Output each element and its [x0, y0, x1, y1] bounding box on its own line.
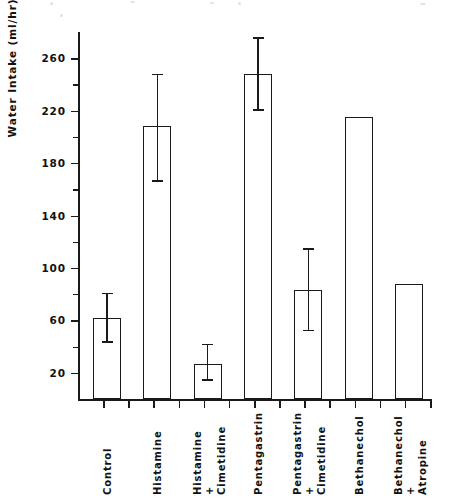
y-axis-title: Water Intake (ml/hr) [6, 0, 18, 168]
error-bar-cap [102, 341, 113, 343]
x-axis-category-label: Pentagastrin [292, 412, 304, 495]
scan-speck [60, 14, 63, 17]
y-axis-tick-label: 140 [22, 211, 66, 222]
x-axis-tick [128, 399, 130, 408]
y-axis-minor-tick [73, 84, 78, 85]
x-axis-tick [329, 399, 331, 408]
scan-speck [420, 3, 426, 5]
error-bar [157, 74, 158, 180]
error-bar-cap [303, 330, 314, 332]
x-axis-tick [103, 399, 105, 408]
x-axis-tick [279, 399, 281, 408]
error-bar [257, 37, 258, 109]
x-axis-tick [204, 399, 206, 408]
y-axis-tick-label: 220 [22, 106, 66, 117]
x-axis-tick [304, 399, 306, 408]
y-axis-tick-label: 20 [22, 368, 66, 379]
x-axis-category-label: Cimetidine [316, 426, 328, 495]
plot-area: 2060100140180220260 [78, 32, 430, 401]
error-bar [207, 344, 208, 379]
error-bar-cap [303, 248, 314, 250]
y-axis-tick-label: 100 [22, 263, 66, 274]
y-axis-tick-label: 180 [22, 158, 66, 169]
x-axis-category-label: Cimetidine [216, 426, 228, 495]
scan-speck [50, 2, 53, 5]
y-axis-tick-label: 260 [22, 53, 66, 64]
y-axis-tick-label: 60 [22, 315, 66, 326]
x-axis-category-label: Bethanechol [354, 415, 366, 495]
x-axis-category-label: Pentagastrin [253, 412, 265, 495]
bar [244, 74, 272, 399]
x-axis-category-label: Bethanechol [393, 415, 405, 495]
bar [395, 284, 423, 399]
y-axis-tick [71, 111, 78, 112]
error-bar-cap [253, 109, 264, 111]
y-axis-tick [71, 373, 78, 374]
x-axis-tick [179, 399, 181, 408]
x-axis-category-label: + [204, 486, 216, 495]
y-axis-minor-tick [73, 189, 78, 190]
x-axis-category-label: Atropine [417, 439, 429, 495]
error-bar-cap [253, 37, 264, 39]
y-axis-minor-tick [73, 294, 78, 295]
error-bar [106, 293, 107, 342]
y-axis-tick [71, 58, 78, 59]
y-axis-minor-tick [73, 137, 78, 138]
x-axis-tick [254, 399, 256, 408]
x-axis-tick [229, 399, 231, 408]
error-bar [308, 248, 309, 329]
y-axis-tick [71, 268, 78, 269]
x-axis-category-label: Control [102, 448, 114, 495]
scan-speck [210, 2, 214, 4]
scan-speck [238, 2, 241, 5]
error-bar-cap [202, 379, 213, 381]
error-bar-cap [202, 344, 213, 346]
x-axis-category-label: + [405, 486, 417, 495]
y-axis-tick [71, 216, 78, 217]
scan-speck [130, 1, 135, 3]
y-axis-tick [71, 320, 78, 321]
y-axis-tick [71, 163, 78, 164]
y-axis-minor-tick [73, 347, 78, 348]
x-axis-tick [355, 399, 357, 408]
bar [345, 117, 373, 399]
x-axis-category-label: Histamine [192, 430, 204, 495]
x-axis-category-label: + [304, 486, 316, 495]
y-axis-minor-tick [73, 242, 78, 243]
error-bar-cap [152, 74, 163, 76]
error-bar-cap [152, 180, 163, 182]
x-axis-tick [153, 399, 155, 408]
y-axis-line [78, 32, 80, 401]
x-axis-tick [405, 399, 407, 408]
x-axis-tick [430, 399, 432, 408]
x-axis-tick [380, 399, 382, 408]
figure-bar-chart-water-intake: Water Intake (ml/hr) 2060100140180220260… [0, 0, 452, 499]
error-bar-cap [102, 293, 113, 295]
x-axis-category-label: Histamine [152, 430, 164, 495]
